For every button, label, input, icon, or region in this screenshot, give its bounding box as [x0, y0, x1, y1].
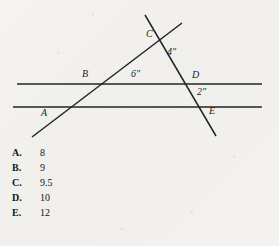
answer-choice-b-value: 9: [32, 162, 45, 173]
answer-choice-d-value: 10: [32, 192, 50, 203]
question-page: C B D A E 4" 6" 2" A. 8 B. 9 C. 9.5 D. 1…: [0, 0, 279, 246]
answer-choice-c-letter: C.: [12, 177, 32, 188]
geometry-figure: C B D A E 4" 6" 2": [0, 0, 279, 146]
point-label-c: C: [146, 29, 153, 39]
segment-length-de: 2": [197, 87, 206, 97]
point-label-d: D: [192, 70, 199, 80]
scan-speck: [92, 13, 94, 16]
answer-choices-list: A. 8 B. 9 C. 9.5 D. 10 E. 12: [12, 147, 132, 222]
point-label-b: B: [82, 69, 88, 79]
answer-choice-c-value: 9.5: [32, 177, 53, 188]
answer-choice-d[interactable]: D. 10: [12, 192, 132, 207]
scan-speck: [120, 228, 124, 230]
answer-choice-a[interactable]: A. 8: [12, 147, 132, 162]
answer-choice-d-letter: D.: [12, 192, 32, 203]
scan-speck: [190, 210, 193, 213]
answer-choice-b[interactable]: B. 9: [12, 162, 132, 177]
segment-length-bd: 6": [131, 69, 140, 79]
segment-length-cd: 4": [167, 47, 176, 57]
answer-choice-b-letter: B.: [12, 162, 32, 173]
point-label-e: E: [209, 106, 215, 116]
answer-choice-e-letter: E.: [12, 207, 32, 218]
answer-choice-e[interactable]: E. 12: [12, 207, 132, 222]
scan-speck: [57, 52, 60, 54]
answer-choice-c[interactable]: C. 9.5: [12, 177, 132, 192]
answer-choice-a-value: 8: [32, 147, 45, 158]
scan-speck: [233, 156, 236, 158]
answer-choice-e-value: 12: [32, 207, 50, 218]
answer-choice-a-letter: A.: [12, 147, 32, 158]
point-label-a: A: [41, 108, 47, 118]
descending-transversal-line: [145, 15, 216, 136]
